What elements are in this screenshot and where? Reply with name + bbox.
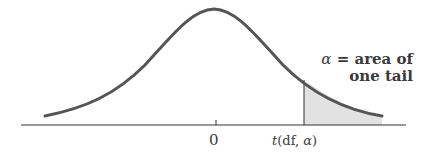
t-distribution-diagram: α = area of one tail 0 t(df, α) (0, 0, 432, 160)
zero-label-text: 0 (209, 131, 219, 149)
critical-args-close: ) (312, 133, 317, 148)
zero-label: 0 (209, 131, 219, 149)
annotation-line-1: α = area of (321, 50, 413, 68)
critical-value-label: t(df, α) (272, 133, 317, 148)
alpha-symbol-critical: α (303, 133, 312, 148)
shaded-tail-region (304, 80, 382, 125)
annotation-text-2: one tail (349, 67, 413, 85)
alpha-symbol: α (321, 50, 331, 68)
critical-args-open: (df, (277, 133, 303, 148)
annotation-line-2: one tail (349, 67, 413, 85)
annotation-text-1: = area of (331, 50, 413, 68)
